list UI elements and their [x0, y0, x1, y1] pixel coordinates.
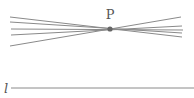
point-p-label: P: [106, 7, 115, 22]
pencil-line: [11, 29, 183, 30]
pencil-of-lines: [10, 17, 183, 46]
diagram-canvas: P l: [0, 0, 194, 98]
line-l-label: l: [4, 81, 8, 96]
point-p: [107, 26, 112, 31]
